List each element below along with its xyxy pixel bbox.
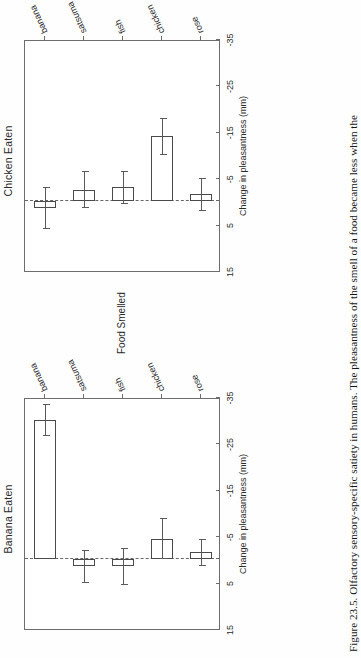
- value-tick: [216, 629, 220, 630]
- figure-caption: Figure 23.5. Olfactory sensory-specific …: [347, 115, 360, 652]
- category-tick: [161, 394, 162, 398]
- category-axis-title: Food Smelled: [116, 292, 127, 354]
- panel-title-chicken: Chicken Eaten: [2, 22, 14, 300]
- value-tick-label: 15: [225, 267, 235, 277]
- category-tick: [161, 36, 162, 40]
- error-bar-fish: [123, 171, 124, 203]
- value-tick-label: -5: [225, 175, 235, 183]
- category-label-satsuma: satsuma: [65, 0, 88, 35]
- category-tick: [83, 394, 84, 398]
- category-label-satsuma: satsuma: [65, 358, 88, 393]
- category-tick: [122, 36, 123, 40]
- value-tick-label: 5: [225, 223, 235, 228]
- error-bar-rose: [201, 539, 202, 567]
- value-tick-label: 15: [225, 625, 235, 635]
- error-bar-satsuma: [84, 171, 85, 208]
- figure-page: Chicken Eaten 155-5-15-25-35Change in pl…: [0, 0, 361, 658]
- figure-caption-wrap: Figure 23.5. Olfactory sensory-specific …: [347, 115, 360, 652]
- value-tick-label: -15: [225, 484, 235, 497]
- panel-chicken-eaten: Chicken Eaten 155-5-15-25-35Change in pl…: [0, 22, 300, 300]
- category-label-chicken: chicken: [145, 361, 167, 393]
- category-label-rose: rose: [189, 15, 205, 35]
- category-label-fish: fish: [113, 18, 128, 35]
- bar-banana: [34, 420, 56, 559]
- value-tick: [216, 490, 220, 491]
- category-label-chicken: chicken: [145, 3, 167, 35]
- error-bar-chicken: [162, 118, 163, 155]
- value-tick: [216, 536, 220, 537]
- error-bar-satsuma: [84, 550, 85, 582]
- panel-banana-eaten: Banana Eaten 155-5-15-25-35Change in ple…: [0, 380, 300, 658]
- category-tick: [83, 36, 84, 40]
- panel-title-banana: Banana Eaten: [2, 380, 14, 658]
- value-tick-label: -35: [225, 391, 235, 404]
- value-tick: [216, 39, 220, 40]
- value-axis-title: Change in pleasantness (mm): [238, 398, 248, 630]
- chart-chicken-eaten: Chicken Eaten 155-5-15-25-35Change in pl…: [0, 22, 300, 300]
- value-tick: [216, 443, 220, 444]
- value-tick-label: -25: [225, 438, 235, 451]
- category-tick: [200, 36, 201, 40]
- value-tick-label: -15: [225, 126, 235, 139]
- category-tick: [200, 394, 201, 398]
- error-bar-rose: [201, 178, 202, 210]
- chart-banana-eaten: Banana Eaten 155-5-15-25-35Change in ple…: [0, 380, 300, 658]
- plot-area-chicken: [24, 40, 220, 272]
- value-tick-label: -35: [225, 33, 235, 46]
- category-tick: [44, 394, 45, 398]
- value-tick: [216, 85, 220, 86]
- value-tick-label: 5: [225, 581, 235, 586]
- value-axis-title: Change in pleasantness (mm): [238, 40, 248, 272]
- value-tick: [216, 271, 220, 272]
- category-label-banana: banana: [27, 4, 49, 35]
- category-tick: [44, 36, 45, 40]
- error-bar-banana: [45, 188, 46, 230]
- category-label-banana: banana: [27, 362, 49, 393]
- plot-area-banana: [24, 398, 220, 630]
- value-tick: [216, 225, 220, 226]
- category-tick: [122, 394, 123, 398]
- error-bar-chicken: [162, 518, 163, 560]
- error-bar-banana: [45, 404, 46, 436]
- value-tick: [216, 132, 220, 133]
- value-tick: [216, 178, 220, 179]
- value-tick-label: -25: [225, 80, 235, 93]
- category-label-fish: fish: [113, 376, 128, 393]
- value-tick: [216, 397, 220, 398]
- value-tick-label: -5: [225, 533, 235, 541]
- category-label-rose: rose: [189, 373, 205, 393]
- value-tick: [216, 583, 220, 584]
- error-bar-fish: [123, 548, 124, 585]
